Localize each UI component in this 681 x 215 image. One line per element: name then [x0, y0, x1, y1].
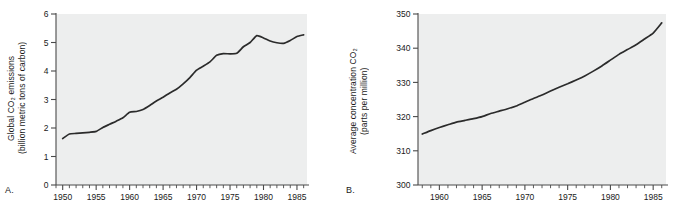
x-tick-label: 1960 — [430, 192, 449, 202]
figure-co2-trends: A. Global CO₂ emissions (billion metric … — [0, 0, 681, 215]
y-tick-label: 3 — [44, 95, 49, 105]
y-tick-label: 0 — [44, 180, 49, 190]
x-tick-label: 1985 — [287, 192, 306, 202]
x-tick-label: 1975 — [558, 192, 577, 202]
y-tick-label: 350 — [396, 9, 410, 19]
y-tick-label: 6 — [44, 9, 49, 19]
y-tick-label: 1 — [44, 152, 49, 162]
y-tick-label: 300 — [396, 180, 410, 190]
panel-b-plot: 3003103203303403501960196519701975198019… — [340, 0, 681, 215]
x-tick-label: 1960 — [120, 192, 139, 202]
plot-background — [56, 14, 307, 185]
x-tick-label: 1970 — [515, 192, 534, 202]
x-tick-label: 1975 — [221, 192, 240, 202]
x-tick-label: 1965 — [473, 192, 492, 202]
x-tick-label: 1970 — [187, 192, 206, 202]
x-tick-label: 1980 — [254, 192, 273, 202]
y-tick-label: 340 — [396, 43, 410, 53]
x-tick-label: 1980 — [601, 192, 620, 202]
x-tick-label: 1955 — [87, 192, 106, 202]
chart-panel-a: A. Global CO₂ emissions (billion metric … — [0, 0, 340, 215]
y-tick-label: 2 — [44, 123, 49, 133]
chart-panel-b: B. Average concentration CO₂ (parts per … — [340, 0, 681, 215]
y-tick-label: 310 — [396, 146, 410, 156]
y-tick-label: 5 — [44, 38, 49, 48]
y-tick-label: 330 — [396, 78, 410, 88]
plot-background — [418, 14, 666, 185]
x-tick-label: 1985 — [644, 192, 663, 202]
x-tick-label: 1965 — [154, 192, 173, 202]
x-tick-label: 1950 — [53, 192, 72, 202]
panel-a-plot: 012345619501955196019651970197519801985 — [0, 0, 340, 215]
y-tick-label: 320 — [396, 112, 410, 122]
y-tick-label: 4 — [44, 66, 49, 76]
